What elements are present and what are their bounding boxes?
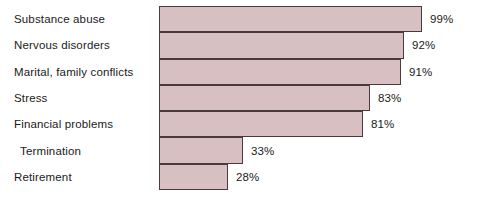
bar [159,137,243,163]
bar-value-label: 33% [251,137,274,163]
bar-value-label: 99% [430,6,453,32]
bar [159,164,228,190]
bar-row: Stress83% [0,85,477,111]
bar-row: Financial problems81% [0,111,477,137]
bar [159,59,401,85]
bar-value-label: 28% [236,164,259,190]
bar [159,111,363,137]
category-label: Substance abuse [14,6,105,32]
plot-area: Substance abuse99%Nervous disorders92%Ma… [0,0,477,204]
category-label: Termination [20,137,81,163]
bar-row: Nervous disorders92% [0,32,477,58]
category-label: Marital, family conflicts [14,59,133,85]
bar-value-label: 81% [371,111,394,137]
bar-row: Substance abuse99% [0,6,477,32]
category-label: Retirement [14,164,72,190]
bar-row: Marital, family conflicts91% [0,59,477,85]
bar-value-label: 83% [378,85,401,111]
bar [159,6,422,32]
category-label: Stress [14,85,48,111]
bar-row: Retirement28% [0,164,477,190]
bar-row: Termination33% [0,137,477,163]
category-label: Financial problems [14,111,113,137]
bar-value-label: 92% [412,32,435,58]
bar [159,85,370,111]
bar-value-label: 91% [409,59,432,85]
bar-chart: Substance abuse99%Nervous disorders92%Ma… [0,0,477,204]
bar [159,32,404,58]
category-label: Nervous disorders [14,32,110,58]
